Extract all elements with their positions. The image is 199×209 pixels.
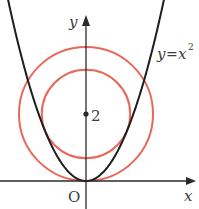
x-axis-label: x [184,187,193,205]
y-axis-label: y [68,13,78,31]
curve-equation-label: y = x 2 [156,42,194,63]
center-value-label: 2 [91,107,101,125]
equation-equals: = [166,46,178,62]
parabola-circles-figure: y x O 2 y = x 2 [0,0,199,209]
center-point [83,111,88,116]
equation-exponent: 2 [188,42,194,52]
y-axis-arrow-icon [82,15,90,26]
equation-rhs: x [178,45,187,63]
equation-lhs: y [156,45,166,63]
origin-label: O [68,188,80,206]
x-axis-arrow-icon [186,177,196,185]
